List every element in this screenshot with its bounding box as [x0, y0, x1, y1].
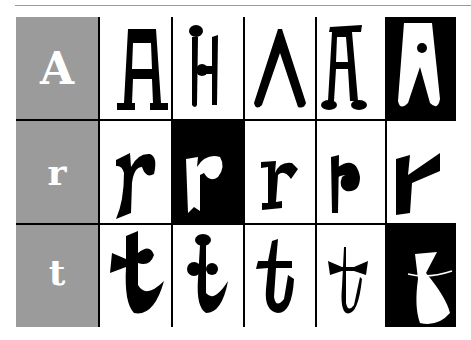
letter-grid: A r t — [16, 17, 456, 327]
glyph-a-inverted-icon — [398, 23, 440, 107]
glyph-t-ball-top-icon — [187, 234, 228, 313]
glyph-t-crossbar-icon — [256, 239, 294, 313]
glyph-t-vase-inverted-icon — [408, 252, 452, 324]
glyph-a-bar-top-icon — [321, 25, 367, 110]
top-rule — [15, 5, 471, 6]
glyph-t-flared-icon — [110, 231, 164, 313]
glyph-r-brush-icon — [116, 153, 155, 219]
glyph-r-serif-icon — [261, 161, 298, 210]
glyph-r-wedge-icon — [396, 153, 440, 215]
glyph-r-spiral-icon — [331, 155, 360, 213]
glyph-r-inverted-icon — [186, 156, 223, 213]
glyph-a-ball-top-icon — [189, 25, 218, 107]
glyph-a-lambda-icon — [254, 29, 306, 108]
glyph-t-bowtie-icon — [328, 247, 368, 313]
glyph-a-slab-serif-icon — [117, 29, 168, 110]
glyph-artwork — [16, 17, 456, 327]
